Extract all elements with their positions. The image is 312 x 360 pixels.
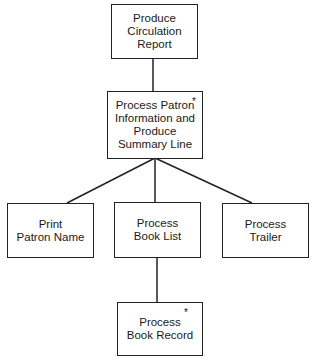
node-label: Process Trailer bbox=[245, 218, 287, 244]
node-process-trailer: Process Trailer bbox=[222, 203, 309, 258]
edge-process-patron-to-process-trailer bbox=[155, 158, 252, 203]
node-produce-circulation-report: Produce Circulation Report bbox=[111, 4, 198, 59]
repetition-marker: * bbox=[192, 97, 196, 107]
node-label: Produce Circulation Report bbox=[127, 12, 181, 51]
node-process-patron-information: Process Patron Information and Produce S… bbox=[107, 91, 203, 159]
node-label: Print Patron Name bbox=[17, 218, 85, 244]
node-process-book-record: Process Book Record * bbox=[117, 302, 203, 356]
node-label: Process Patron Information and Produce S… bbox=[115, 99, 195, 151]
node-print-patron-name: Print Patron Name bbox=[7, 203, 94, 258]
node-process-book-list: Process Book List bbox=[114, 202, 201, 258]
node-label: Process Book List bbox=[134, 217, 181, 243]
node-label: Process Book Record bbox=[127, 316, 193, 342]
edge-process-patron-to-print-patron-name bbox=[67, 158, 155, 203]
repetition-marker: * bbox=[184, 308, 188, 318]
